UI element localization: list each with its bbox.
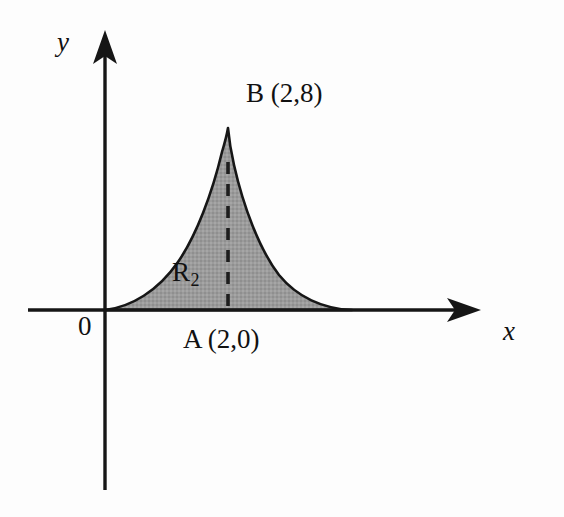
- region-label-base: R: [172, 257, 190, 287]
- x-axis-label: x: [503, 318, 515, 345]
- y-axis-label: y: [57, 29, 69, 56]
- region-label-r2: R2: [172, 259, 200, 289]
- origin-label: 0: [78, 313, 92, 340]
- region-label-subscript: 2: [191, 270, 200, 290]
- point-a-label: A (2,0): [183, 326, 260, 353]
- point-b-label: B (2,8): [246, 80, 323, 107]
- figure-canvas: y x 0 B (2,8) A (2,0) R2: [0, 0, 564, 517]
